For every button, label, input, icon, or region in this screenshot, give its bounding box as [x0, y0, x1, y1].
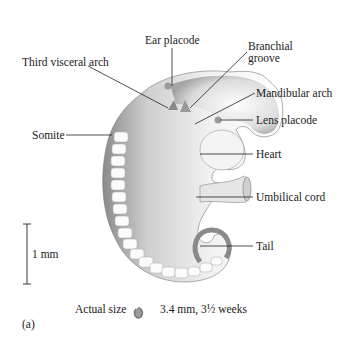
label-somite: Somite: [32, 129, 65, 142]
embryo-illustration: [0, 0, 355, 343]
label-mandibular-arch: Mandibular arch: [256, 87, 332, 100]
label-ear-placode: Ear placode: [145, 34, 200, 47]
actual-size-label: Actual size: [75, 303, 126, 316]
scale-bar: [23, 224, 31, 284]
ear-placode-marker: [165, 83, 172, 90]
label-branchial-groove-line2: groove: [248, 52, 280, 65]
scale-bar-label: 1 mm: [32, 248, 59, 261]
measurement-caption: 3.4 mm, 3½ weeks: [160, 303, 247, 316]
label-third-visceral-arch: Third visceral arch: [22, 56, 109, 69]
label-umbilical-cord: Umbilical cord: [256, 191, 325, 204]
actual-size-embryo-icon: [134, 308, 142, 318]
label-heart: Heart: [256, 148, 282, 161]
label-tail: Tail: [256, 240, 274, 253]
label-lens-placode: Lens placode: [256, 114, 317, 127]
panel-label: (a): [22, 318, 35, 331]
